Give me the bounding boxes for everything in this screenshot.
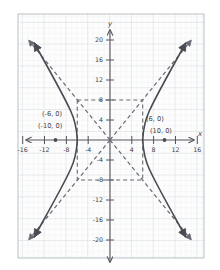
grid-background <box>18 14 204 258</box>
y-tick-label: 20 <box>95 36 103 43</box>
focus-right-label: (10, 0) <box>150 127 172 135</box>
y-axis-label: y <box>107 20 113 28</box>
vertex-right-label: (6, 0) <box>146 115 164 123</box>
x-tick-label: 16 <box>193 146 201 153</box>
focus-left-point <box>54 138 58 142</box>
y-tick-label: -20 <box>93 236 103 243</box>
x-tick-label: 4 <box>130 146 134 153</box>
major-gridlines <box>18 14 204 258</box>
y-tick-label: -12 <box>93 196 103 203</box>
x-tick-label: -4 <box>85 146 91 153</box>
focus-left-label: (-10, 0) <box>38 122 62 130</box>
y-tick-label: 16 <box>95 56 103 63</box>
y-tick-label: -16 <box>93 216 103 223</box>
x-tick-label: -8 <box>63 146 69 153</box>
x-axis-label: x <box>197 130 203 138</box>
coordinate-plane: -16 -12 -8 -4 4 8 12 16 20 16 12 8 4 -4 … <box>0 0 220 270</box>
y-tick-label: -4 <box>97 156 103 163</box>
x-tick-label: 8 <box>152 146 156 153</box>
y-tick-label: 12 <box>95 76 103 83</box>
focus-right-point <box>163 138 167 142</box>
y-tick-label: 8 <box>99 96 103 103</box>
y-tick-label: 4 <box>99 116 103 123</box>
hyperbola-graph-figure: -16 -12 -8 -4 4 8 12 16 20 16 12 8 4 -4 … <box>0 0 220 270</box>
vertex-left-label: (-6, 0) <box>42 110 62 118</box>
y-tick-label: -8 <box>97 176 103 183</box>
x-tick-label: 12 <box>171 146 179 153</box>
x-tick-label: -12 <box>39 146 49 153</box>
x-tick-label: -16 <box>18 146 28 153</box>
